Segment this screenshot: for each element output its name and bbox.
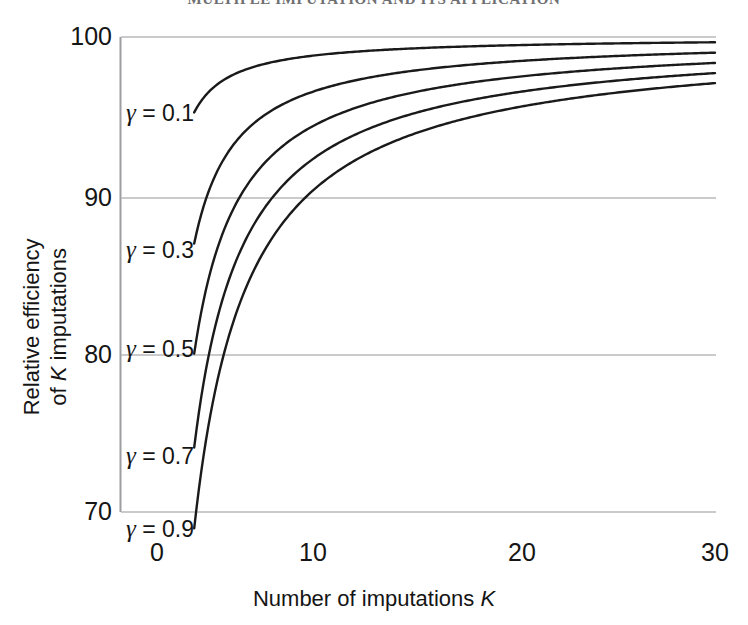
x-tick-label-30: 30 <box>685 540 745 565</box>
y-tick-label-70: 70 <box>48 499 112 524</box>
x-tick-label-10: 10 <box>283 540 343 565</box>
curve-05 <box>194 63 715 354</box>
y-axis-title-symbol: K <box>46 367 71 382</box>
y-axis-title-line2: of K imputations <box>46 177 73 477</box>
gamma-value: = 0.3 <box>136 237 194 263</box>
gamma-value: = 0.5 <box>136 336 194 362</box>
curve-label-gamma-0-3: γ = 0.3 <box>126 237 194 262</box>
gamma-value: = 0.9 <box>136 516 194 542</box>
x-axis-title-symbol: K <box>480 586 495 611</box>
x-tick-label-0: 0 <box>127 540 187 565</box>
curve-09 <box>194 83 715 528</box>
gamma-symbol: γ <box>126 335 136 362</box>
curve-07 <box>194 73 715 447</box>
y-axis-title-line1: Relative efficiency <box>19 177 46 477</box>
curve-label-gamma-0-1: γ = 0.1 <box>126 100 194 125</box>
gamma-value: = 0.7 <box>136 443 194 469</box>
x-axis-title-text: Number of imputations <box>253 586 480 611</box>
x-axis-title: Number of imputations K <box>0 586 748 612</box>
gamma-value: = 0.1 <box>136 100 194 126</box>
curve-label-gamma-0-7: γ = 0.7 <box>126 443 194 468</box>
curve-label-gamma-0-9: γ = 0.9 <box>126 516 194 541</box>
gamma-symbol: γ <box>126 442 136 469</box>
gamma-symbol: γ <box>126 236 136 263</box>
curve-01 <box>194 42 715 112</box>
gamma-symbol: γ <box>126 515 136 542</box>
y-axis-title-line2-pre: of <box>46 381 71 405</box>
gamma-symbol: γ <box>126 99 136 126</box>
plot-area <box>0 0 748 625</box>
y-axis-title-line2-post: imputations <box>46 248 71 367</box>
x-tick-label-20: 20 <box>492 540 552 565</box>
figure-relative-efficiency: 100 90 80 70 0 10 20 30 Number of imputa… <box>0 0 748 625</box>
curve-group <box>194 42 715 528</box>
curve-03 <box>194 53 715 244</box>
y-tick-label-100: 100 <box>48 24 112 49</box>
curve-label-gamma-0-5: γ = 0.5 <box>126 336 194 361</box>
y-axis-title: Relative efficiency of K imputations <box>19 177 73 477</box>
